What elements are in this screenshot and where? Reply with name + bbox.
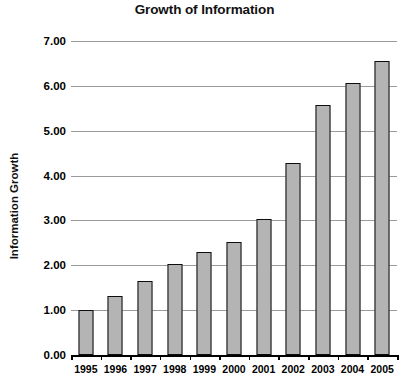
x-axis-tick: [278, 355, 280, 360]
x-axis-tick: [190, 355, 192, 360]
plot-area: [71, 41, 397, 355]
bar[interactable]: [315, 105, 330, 355]
y-axis-title: Information Growth: [8, 116, 20, 296]
bar-slot: [160, 41, 190, 355]
x-axis-label: 1995: [74, 363, 97, 375]
x-axis-label: 2005: [370, 363, 393, 375]
chart-title: Growth of Information: [0, 2, 409, 17]
bar[interactable]: [108, 296, 123, 355]
x-axis-tick: [397, 355, 399, 360]
bar-slot: [308, 41, 338, 355]
y-axis-tick-label: 0.00: [22, 349, 66, 361]
bar-slot: [71, 41, 101, 355]
x-axis-label: 2003: [311, 363, 334, 375]
x-axis-label: 2001: [252, 363, 275, 375]
x-axis-tick: [367, 355, 369, 360]
x-axis-tick: [308, 355, 310, 360]
bar-slot: [278, 41, 308, 355]
bar[interactable]: [226, 242, 241, 355]
bar-slot: [219, 41, 249, 355]
y-axis-tick-label: 6.00: [22, 80, 66, 92]
y-axis-tick-label: 5.00: [22, 125, 66, 137]
bar-slot: [130, 41, 160, 355]
y-axis-tick-label: 2.00: [22, 259, 66, 271]
x-axis-tick: [101, 355, 103, 360]
bar[interactable]: [345, 83, 360, 355]
x-axis-label: 1998: [163, 363, 186, 375]
bar[interactable]: [286, 163, 301, 355]
y-axis-tick-label: 3.00: [22, 214, 66, 226]
bar-slot: [338, 41, 368, 355]
bar-group: [71, 41, 397, 355]
bar[interactable]: [197, 252, 212, 355]
x-axis-tick: [130, 355, 132, 360]
x-axis-tick: [338, 355, 340, 360]
x-axis-tick: [71, 355, 73, 360]
bar[interactable]: [256, 219, 271, 355]
x-axis-tick: [249, 355, 251, 360]
bar-chart: Growth of Information Information Growth…: [0, 0, 409, 383]
y-axis-tick-label: 1.00: [22, 304, 66, 316]
x-axis-tick: [219, 355, 221, 360]
y-axis-tick-label: 7.00: [22, 35, 66, 47]
bar-slot: [101, 41, 131, 355]
x-axis-label: 2004: [341, 363, 364, 375]
bar[interactable]: [167, 264, 182, 356]
x-axis-label: 1996: [104, 363, 127, 375]
bar-slot: [190, 41, 220, 355]
x-axis-label: 2002: [282, 363, 305, 375]
axis-baseline: [71, 355, 397, 357]
bar[interactable]: [375, 61, 390, 355]
x-axis-tick: [160, 355, 162, 360]
bar[interactable]: [138, 281, 153, 355]
x-axis-label: 1997: [133, 363, 156, 375]
x-axis-label: 1999: [193, 363, 216, 375]
bar[interactable]: [78, 310, 93, 355]
y-axis-tick-label: 4.00: [22, 170, 66, 182]
bar-slot: [249, 41, 279, 355]
x-axis-label: 2000: [222, 363, 245, 375]
bar-slot: [367, 41, 397, 355]
